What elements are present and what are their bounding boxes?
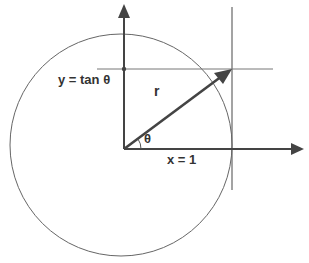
r-label: r	[154, 83, 160, 99]
radius-vector	[124, 76, 222, 149]
unit-circle	[10, 34, 232, 256]
y-intercept-dot	[122, 67, 126, 71]
x-equals-1-label: x = 1	[167, 152, 196, 167]
unit-circle-diagram: y = tan θ r θ x = 1	[0, 0, 309, 263]
theta-label: θ	[144, 131, 151, 146]
x-axis-arrowhead-icon	[291, 143, 304, 155]
y-equals-tan-theta-label: y = tan θ	[58, 72, 110, 87]
y-axis-arrowhead-icon	[118, 4, 130, 18]
radius-arrowhead-icon	[214, 69, 232, 84]
theta-angle-arc	[138, 139, 141, 149]
